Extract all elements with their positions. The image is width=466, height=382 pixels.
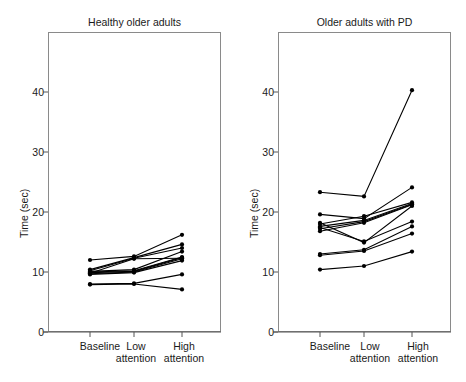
y-tick-label-right-30: 30 bbox=[252, 146, 274, 158]
x-tick-right-high-word2: attention bbox=[398, 352, 438, 364]
x-tick-right-low-word2: attention bbox=[350, 352, 390, 364]
y-tick-label-left-30: 30 bbox=[22, 146, 44, 158]
x-tick-left-high-word1: High bbox=[173, 340, 195, 352]
plot-area-pd bbox=[278, 32, 451, 332]
panel-title-healthy: Healthy older adults bbox=[48, 16, 221, 28]
figure-canvas: Healthy older adults Time (sec) 40 30 20… bbox=[0, 0, 466, 382]
y-tick-label-left-0: 0 bbox=[22, 326, 44, 338]
y-tick-label-left-40: 40 bbox=[22, 86, 44, 98]
x-tick-left-low-word1: Low bbox=[126, 340, 145, 352]
x-tick-label-right-low: Lowattention bbox=[344, 340, 396, 364]
y-tick-label-left-20: 20 bbox=[22, 206, 44, 218]
y-tick-label-left-10: 10 bbox=[22, 266, 44, 278]
panel-title-pd: Older adults with PD bbox=[278, 16, 451, 28]
y-tick-label-right-40: 40 bbox=[252, 86, 274, 98]
x-tick-label-left-low: Lowattention bbox=[110, 340, 162, 364]
y-tick-label-right-20: 20 bbox=[252, 206, 274, 218]
x-tick-label-right-high: Highattention bbox=[392, 340, 444, 364]
x-tick-right-low-word1: Low bbox=[360, 340, 379, 352]
x-tick-label-left-high: Highattention bbox=[158, 340, 210, 364]
x-tick-right-high-word1: High bbox=[407, 340, 429, 352]
plot-area-healthy bbox=[48, 32, 221, 332]
y-tick-label-right-10: 10 bbox=[252, 266, 274, 278]
x-tick-left-high-word2: attention bbox=[164, 352, 204, 364]
x-tick-left-low-word2: attention bbox=[116, 352, 156, 364]
y-tick-label-right-0: 0 bbox=[252, 326, 274, 338]
